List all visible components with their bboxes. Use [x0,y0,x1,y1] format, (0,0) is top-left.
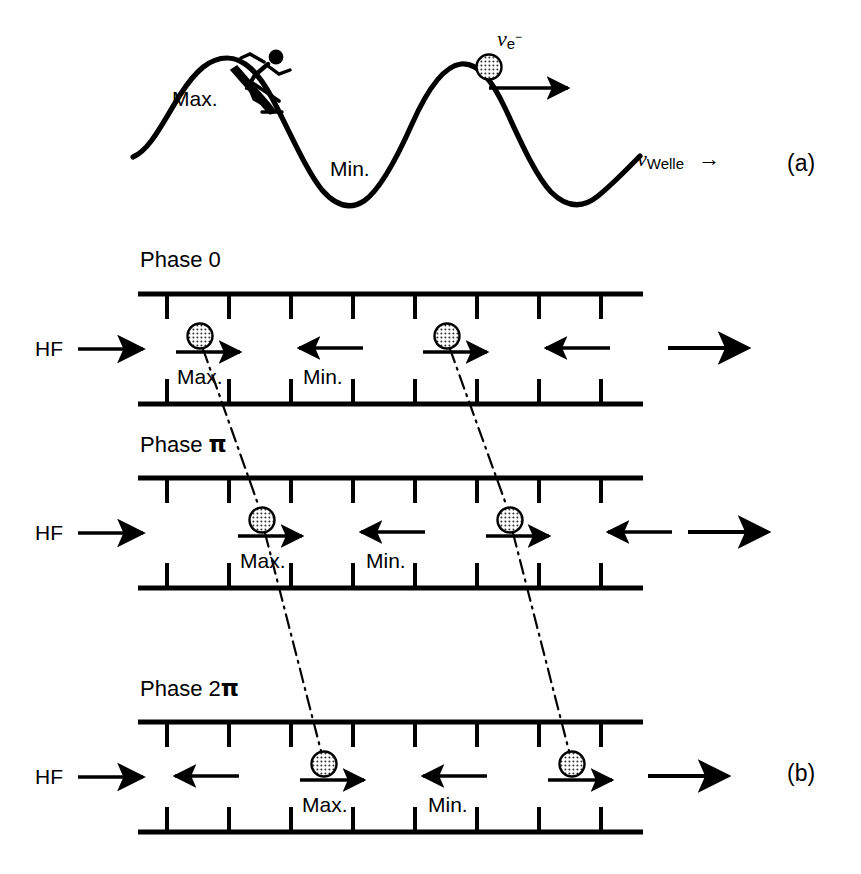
electron-velocity-symbol: v [497,26,507,51]
hf-label-row-2: HF [35,766,63,787]
phase-label-1-text: Phase π [140,432,227,457]
min-label-row-0: Min. [303,366,343,387]
electron-particle-icon [477,55,502,80]
panel-a-wave-curve [133,58,640,206]
phase-label-1: Phase π [140,433,227,456]
electron-velocity-label: ve− [497,28,522,51]
phase-label-2-text: Phase 2π [140,676,239,701]
wave-velocity-label: vWelle → [637,148,720,171]
wave-max-label: Max. [172,88,218,109]
wave-velocity-arrow: → [698,146,720,171]
min-label-row-1: Min. [366,550,406,571]
physics-figure: Max. Min. ve− vWelle → (a) (b) Phase 0 H… [0,0,861,874]
panel-b-label: (b) [787,762,815,785]
wave-velocity-symbol: v [637,146,647,171]
max-label-row-0: Max. [177,366,223,387]
phase-row-0-arrows [78,324,748,353]
phase-label-2: Phase 2π [140,677,239,700]
wave-velocity-subscript: Welle [647,155,684,172]
min-label-row-2: Min. [428,794,468,815]
max-label-row-1: Max. [240,550,286,571]
wave-min-label: Min. [330,158,370,179]
hf-label-row-0: HF [35,338,63,359]
electron-velocity-superscript: − [515,30,522,44]
phase-row-2-arrows [78,752,728,781]
figure-canvas [0,0,861,874]
phase-label-0: Phase 0 [140,249,221,271]
hf-label-row-1: HF [35,522,63,543]
max-label-row-2: Max. [302,794,348,815]
panel-a-label: (a) [787,152,815,175]
phase-row-1-arrows [78,508,768,537]
electron-velocity-subscript: e [507,35,515,52]
